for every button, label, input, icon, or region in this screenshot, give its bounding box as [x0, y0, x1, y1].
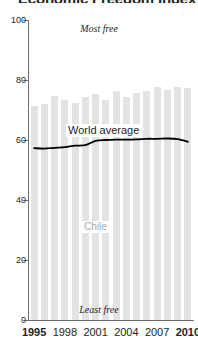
annotation-chile: Chile — [81, 221, 110, 233]
bar-2009 — [174, 87, 181, 320]
bar-2010 — [184, 88, 191, 320]
y-label-60: 60 — [4, 136, 26, 145]
x-axis-labels: 199519982001200420072010 — [0, 326, 198, 346]
y-label-40: 40 — [4, 196, 26, 205]
bar-1997 — [51, 96, 58, 320]
x-label-1995: 1995 — [22, 326, 46, 338]
y-label-0: 0 — [4, 316, 26, 325]
y-label-80: 80 — [4, 76, 26, 85]
bar-2007 — [154, 87, 161, 320]
bar-2008 — [164, 90, 171, 320]
bar-1996 — [41, 104, 48, 320]
annotation-least-free: Least free — [0, 305, 198, 315]
chart-container: Economic Freedom Index 100 80 60 40 20 0… — [0, 0, 198, 353]
x-axis-line — [28, 320, 194, 321]
x-label-2010: 2010 — [176, 326, 198, 338]
chart-title: Economic Freedom Index — [18, 0, 196, 3]
x-label-2001: 2001 — [83, 326, 107, 338]
annotation-world-average: World average — [66, 124, 141, 137]
bar-2006 — [143, 91, 150, 320]
annotation-most-free: Most free — [0, 24, 198, 34]
bar-1995 — [31, 106, 38, 320]
bar-series-chile — [29, 20, 193, 320]
x-label-1998: 1998 — [53, 326, 77, 338]
x-label-2007: 2007 — [145, 326, 169, 338]
x-label-2004: 2004 — [114, 326, 138, 338]
y-label-20: 20 — [4, 256, 26, 265]
